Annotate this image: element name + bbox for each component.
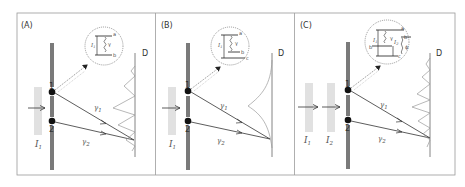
panel-label: (B)	[161, 21, 173, 30]
slit-label: 1	[345, 80, 350, 89]
level-label: a	[239, 30, 242, 36]
gamma-label: γ	[235, 40, 238, 47]
slit-screen-middle	[186, 96, 190, 117]
slit-label: 1	[49, 82, 54, 91]
level-label: b	[369, 44, 372, 50]
level-label: c	[398, 53, 401, 59]
gamma-label: γ	[390, 35, 393, 42]
level-label: a	[113, 31, 116, 37]
detector-label: D	[436, 49, 442, 58]
slit-screen-middle	[50, 96, 54, 117]
level-label: b	[113, 52, 116, 58]
detector-label: D	[142, 49, 148, 58]
level-label: a	[401, 25, 404, 31]
atom-2	[185, 118, 192, 125]
slit-label: 2	[185, 125, 190, 134]
atom-2	[345, 117, 352, 124]
slit-screen-middle	[346, 95, 350, 116]
panel-label: (A)	[21, 21, 33, 30]
slit-label: 2	[49, 125, 54, 134]
gamma-label: γ	[108, 41, 111, 48]
level-label: b	[241, 49, 244, 55]
slit-screen-top	[50, 43, 54, 87]
slit-label: 1	[185, 81, 190, 90]
atom-2	[49, 118, 56, 125]
level-label: c	[246, 55, 249, 61]
detector-label: D	[278, 49, 284, 58]
panel-label: (C)	[300, 21, 312, 30]
double-slit-figure: (A) I1 1 2 γ1 γ2 a b γ I1	[0, 0, 465, 187]
level-label: b	[404, 34, 407, 40]
slit-label: 2	[345, 124, 350, 133]
